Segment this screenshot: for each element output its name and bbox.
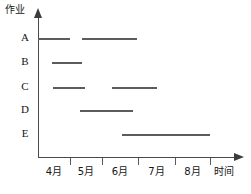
row-label-c: C	[18, 80, 32, 93]
x-axis-tick-label: 7月	[143, 165, 171, 178]
x-axis-tick-label: 6月	[106, 165, 134, 178]
task-bar-c-2	[112, 87, 157, 89]
row-label-b: B	[18, 55, 32, 68]
task-bar-e-1	[122, 134, 210, 136]
x-axis-tick	[138, 158, 139, 165]
x-axis-tick-label: 8月	[179, 165, 207, 178]
task-bar-c-1	[53, 87, 85, 89]
x-axis-tick-label: 5月	[72, 165, 100, 178]
x-axis-tick	[175, 158, 176, 165]
x-axis-tick	[102, 158, 103, 165]
task-bar-d-1	[80, 110, 133, 112]
row-label-e: E	[18, 127, 32, 140]
plot-area: 4月5月6月7月8月ABCDE	[0, 0, 251, 194]
row-label-a: A	[18, 31, 32, 44]
x-axis-tick	[210, 158, 211, 165]
task-bar-a-2	[82, 38, 137, 40]
gantt-chart: 作业 时间 4月5月6月7月8月ABCDE	[0, 0, 251, 194]
task-bar-a-1	[38, 38, 70, 40]
x-axis-tick	[70, 158, 71, 165]
task-bar-b-1	[52, 62, 82, 64]
row-label-d: D	[18, 103, 32, 116]
x-axis-tick-label: 4月	[40, 165, 68, 178]
